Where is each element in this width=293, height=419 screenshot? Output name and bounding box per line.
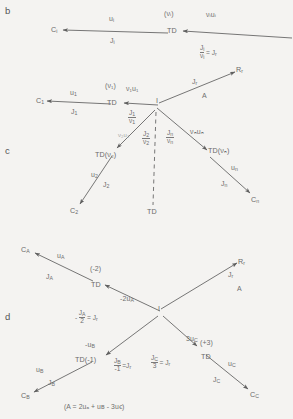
fraction-j2-nu2: J2 ν2	[142, 131, 150, 147]
node-c-2-subscript: 2	[75, 209, 78, 215]
edge-label-u-a: uA	[57, 252, 65, 260]
edge-label-jc-over-3-eq-jr: JC 3 = Jr	[151, 355, 170, 370]
edge-d-center-to-tdb	[106, 316, 158, 355]
node-c-a-subscript: A	[26, 248, 30, 254]
edge-label-j-r-d: Jr	[228, 271, 233, 279]
fraction-numerator: Jn	[166, 130, 174, 137]
td-coefficient-a: (-2)	[90, 265, 101, 272]
td-coefficient-c1: (ν₁)	[105, 82, 116, 89]
edge-label-u-2: u2	[91, 171, 98, 179]
equals-jr-b-d: =Jr	[122, 362, 131, 370]
edge-label-nu1-u1: ν₁u₁	[126, 85, 139, 92]
edge-c-center-to-td1	[124, 103, 158, 105]
fraction-numerator: J1	[128, 110, 136, 117]
edge-label-a-d: A	[237, 285, 242, 292]
fraction-denominator: ν1	[128, 117, 136, 125]
fraction-denominator: 2	[79, 317, 86, 325]
node-c-c-subscript: C	[255, 393, 259, 399]
node-td-b-d: TD(-1)	[75, 356, 96, 363]
equals-jr-a: = Jr	[87, 314, 98, 322]
fraction-jb-minus1: JB -1	[114, 358, 121, 373]
node-c-b-subscript: B	[26, 394, 30, 400]
edge-c-center-to-rr	[159, 72, 235, 103]
edge-label-minus-ja-over-2-eq-jr: - JA 2 = Jr	[75, 310, 98, 325]
edge-label-j-b: JB	[48, 379, 55, 387]
edge-label-u-b: uB	[36, 366, 44, 374]
node-c-i: Ci	[51, 26, 58, 34]
node-r-r-d-subscript: r	[243, 260, 245, 266]
edge-label-u-n: un	[231, 164, 238, 172]
node-i-c: I	[156, 97, 158, 104]
figure-canvas: b Ci (νᵢ) TD ui Ji νᵢuᵢ Ji νi = Jr c C1 …	[0, 0, 293, 419]
fraction-numerator: JA	[79, 310, 86, 317]
fraction-numerator: JB	[114, 358, 121, 365]
node-td-n: TD(νₙ)	[208, 147, 230, 154]
td-coefficient-c-d: (+3)	[200, 339, 213, 346]
edge-label-u-1: u1	[70, 89, 77, 97]
edge-d-center-to-rr	[161, 263, 237, 309]
node-c-c: CC	[250, 391, 259, 399]
edge-label-u-i: ui	[109, 15, 114, 23]
edge-c-td2-to-c2	[80, 156, 112, 204]
node-c-b: CB	[21, 392, 30, 400]
fraction-denominator: 3	[151, 362, 158, 370]
fraction-numerator: Ji	[200, 45, 204, 52]
edge-label-nui-ui: νᵢuᵢ	[206, 11, 216, 18]
node-c-i-subscript: i	[56, 28, 57, 34]
node-td-c-d: TD	[201, 353, 211, 360]
fraction-jc-3: JC 3	[151, 355, 158, 370]
edge-c-td1-to-c1	[47, 101, 111, 104]
edge-c-tdn-to-cn	[210, 157, 250, 193]
equals-jr-b: = Jr	[206, 49, 217, 57]
edge-label-nu2-u2: ν₂u₂	[118, 132, 129, 138]
fraction-j1-nu1: J1 ν1	[128, 110, 136, 126]
node-c-a: CA	[21, 246, 30, 254]
edge-label-jb-over-minus1-eq-jr: JB -1 =Jr	[114, 358, 131, 373]
fraction-numerator: JC	[151, 355, 158, 362]
edge-c-center-to-td-dashed	[153, 112, 156, 205]
fraction-numerator: J2	[142, 131, 150, 138]
edge-label-j-r-c: Jr	[192, 78, 197, 86]
edge-label-j-a: JA	[46, 273, 53, 281]
node-c-1-subscript: 1	[41, 99, 44, 105]
fraction-ji-nui: Ji νi	[200, 45, 204, 61]
edge-label-j-n: Jn	[221, 180, 228, 188]
edge-label-j-2: J2	[103, 181, 110, 189]
edge-label-j-i-subscript: i	[114, 39, 115, 45]
minus-sign-a: -	[75, 314, 77, 321]
edge-label-minus-ub: -uB	[85, 341, 95, 349]
node-c-n: Cn	[251, 196, 259, 204]
edge-label-a-c: A	[202, 92, 207, 99]
node-c-1: C1	[36, 97, 44, 105]
edge-label-nun-un: νₙuₙ	[190, 128, 204, 135]
edge-b-source-to-td	[183, 31, 292, 38]
panel-label-c: c	[5, 146, 10, 156]
fraction-denominator: ν2	[142, 138, 150, 146]
edge-label-3uc: 3uC	[186, 335, 198, 343]
fraction-denominator: -1	[114, 365, 121, 373]
panel-label-b: b	[5, 6, 10, 16]
fraction-denominator: νn	[166, 137, 174, 145]
edge-label-j-c: JC	[213, 376, 220, 384]
node-c-2: C2	[70, 207, 78, 215]
edge-label-minus-2ua: -2uA	[120, 295, 134, 303]
node-td-2: TD(ν₂)	[95, 151, 116, 158]
edge-label-j-1: J1	[71, 108, 78, 116]
edge-label-ji-over-nui-eq-jr: Ji νi = Jr	[200, 45, 217, 61]
node-r-r-c: Rr	[236, 66, 243, 74]
edge-label-u-i-subscript: i	[113, 17, 114, 23]
fraction-jn-nun: Jn νn	[166, 130, 174, 146]
node-r-r-d: Rr	[238, 258, 245, 266]
node-td-1: TD	[107, 99, 117, 106]
edge-b-td-to-ci	[63, 30, 168, 33]
node-td-a: TD	[91, 281, 101, 288]
node-c-n-subscript: n	[256, 198, 259, 204]
td-coefficient-b: (νᵢ)	[164, 10, 174, 17]
node-r-r-c-subscript: r	[241, 68, 243, 74]
figure-footnote: (A = 2uₐ + uʙ - 3uꞓ)	[64, 404, 124, 411]
panel-label-d: d	[5, 312, 10, 322]
edge-label-u-c: uC	[228, 360, 236, 368]
node-i-d: I	[158, 305, 160, 312]
node-td-b: TD	[167, 27, 177, 34]
fraction-ja-2: JA 2	[79, 310, 86, 325]
